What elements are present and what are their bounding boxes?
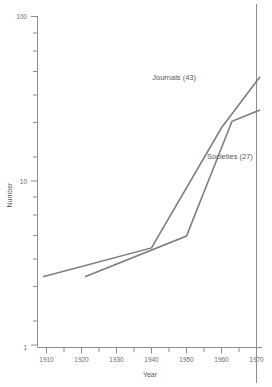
- y-tick-label-10: 10: [20, 178, 28, 185]
- y-axis-ticks: [31, 17, 38, 346]
- series-label-journals: Journals (43): [152, 73, 196, 82]
- x-axis-title: Year: [143, 371, 158, 378]
- y-axis-title: Number: [6, 182, 13, 208]
- series-line-societies: [85, 110, 260, 277]
- y-tick-label-100: 100: [16, 13, 27, 20]
- x-tick-label-1940: 1940: [144, 356, 159, 363]
- chart-figure: 100 10 1 Number 1910 1920 1930 1940 1950: [0, 0, 272, 387]
- y-tick-label-1: 1: [23, 344, 27, 351]
- line-chart-plot: 100 10 1 Number 1910 1920 1930 1940 1950: [0, 0, 272, 387]
- x-tick-label-1950: 1950: [179, 356, 194, 363]
- x-tick-label-1960: 1960: [214, 356, 229, 363]
- x-tick-label-1970: 1970: [249, 356, 264, 363]
- x-tick-label-1910: 1910: [39, 356, 54, 363]
- x-tick-label-1930: 1930: [109, 356, 124, 363]
- series-line-journals: [43, 77, 260, 277]
- x-tick-label-1920: 1920: [74, 356, 89, 363]
- series-label-societies: Societies (27): [207, 152, 253, 161]
- x-axis-major-ticks: [47, 348, 257, 354]
